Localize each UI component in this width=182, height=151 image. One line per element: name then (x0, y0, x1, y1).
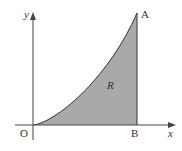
region-label: R (107, 80, 114, 91)
y-axis-arrow-icon (30, 12, 36, 20)
region-r (34, 13, 137, 125)
x-axis-label: x (168, 128, 173, 139)
origin-label: O (20, 128, 28, 139)
y-axis-label: y (24, 9, 29, 20)
point-b-label: B (131, 128, 138, 139)
point-a-label: A (141, 9, 149, 20)
